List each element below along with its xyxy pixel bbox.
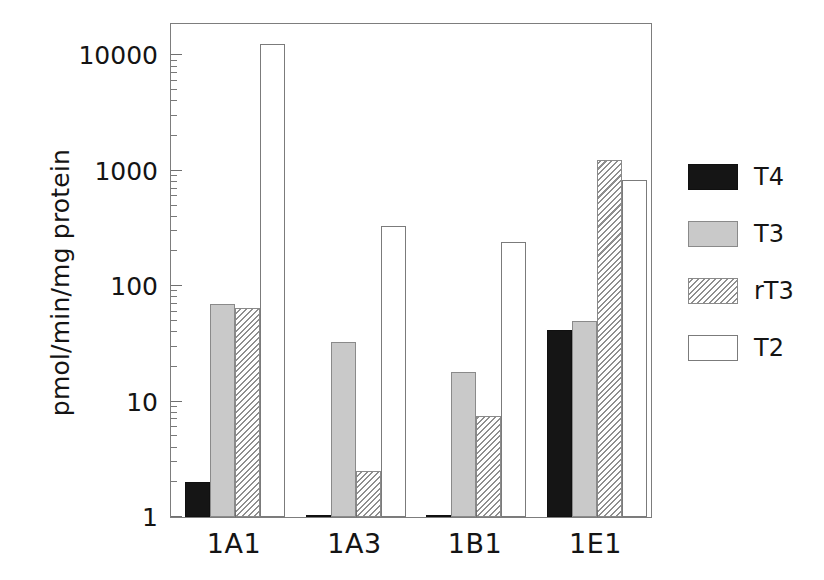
bar-1B1-T3 bbox=[451, 372, 476, 517]
legend-swatch-T3 bbox=[688, 221, 738, 247]
y-axis-title: pmol/min/mg protein bbox=[46, 73, 75, 493]
legend-item-T3: T3 bbox=[688, 205, 818, 262]
bar-1A1-T3 bbox=[210, 304, 235, 517]
x-category-label-1A3: 1A3 bbox=[327, 528, 381, 559]
x-tick bbox=[356, 510, 357, 517]
bars-layer bbox=[171, 24, 651, 517]
plot-area: 110100100010000 bbox=[170, 23, 652, 518]
bar-1E1-T4 bbox=[547, 330, 572, 517]
bar-1A3-rT3 bbox=[356, 471, 381, 517]
x-category-label-1E1: 1E1 bbox=[569, 528, 622, 559]
bar-1A1-rT3 bbox=[235, 308, 260, 517]
legend-label-T4: T4 bbox=[754, 163, 784, 191]
legend-swatch-rT3 bbox=[688, 278, 738, 304]
legend-label-rT3: rT3 bbox=[754, 277, 794, 305]
y-tick-label: 1 bbox=[142, 503, 158, 532]
bar-1A1-T4 bbox=[185, 482, 210, 517]
bar-1E1-rT3 bbox=[597, 160, 622, 517]
bar-1A3-T4 bbox=[306, 515, 331, 517]
legend-item-rT3: rT3 bbox=[688, 262, 818, 319]
bar-1A3-T2 bbox=[381, 226, 406, 517]
bar-1B1-T2 bbox=[501, 242, 526, 517]
bar-1E1-T2 bbox=[622, 180, 647, 517]
bar-1E1-T3 bbox=[572, 321, 597, 517]
legend: T4T3rT3T2 bbox=[688, 148, 818, 376]
x-tick bbox=[476, 510, 477, 517]
legend-swatch-T2 bbox=[688, 335, 738, 361]
y-tick-label: 10 bbox=[126, 387, 158, 416]
bar-1A1-T2 bbox=[260, 44, 285, 517]
y-tick-label: 100 bbox=[110, 272, 158, 301]
legend-item-T2: T2 bbox=[688, 319, 818, 376]
legend-label-T2: T2 bbox=[754, 334, 784, 362]
x-category-label-1B1: 1B1 bbox=[448, 528, 502, 559]
bar-1A3-T3 bbox=[331, 342, 356, 517]
bar-1B1-T4 bbox=[426, 515, 451, 517]
bar-chart-figure: pmol/min/mg protein 110100100010000 1A11… bbox=[0, 0, 824, 580]
x-category-label-1A1: 1A1 bbox=[207, 528, 261, 559]
y-tick-label: 10000 bbox=[78, 41, 158, 70]
legend-item-T4: T4 bbox=[688, 148, 818, 205]
legend-label-T3: T3 bbox=[754, 220, 784, 248]
y-tick-label: 1000 bbox=[94, 156, 158, 185]
legend-swatch-T4 bbox=[688, 164, 738, 190]
x-tick bbox=[597, 510, 598, 517]
x-tick bbox=[235, 510, 236, 517]
bar-1B1-rT3 bbox=[476, 416, 501, 517]
